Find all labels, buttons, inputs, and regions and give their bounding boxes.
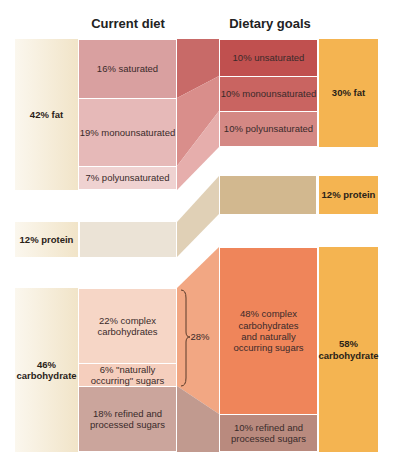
- current-carb-complex: 22% complex carbohydrates: [78, 288, 177, 364]
- goal-carb-complex-natural: 48% complex carbohydrates and naturally …: [219, 247, 318, 415]
- goal-fat-unsaturated: 10% unsaturated: [219, 39, 318, 77]
- goal-protein-label: 12% protein: [319, 176, 378, 214]
- current-fat-saturated: 16% saturated: [78, 39, 177, 99]
- current-fat-polyunsaturated: 7% polyunsaturated: [78, 166, 177, 190]
- current-carb-label: 46% carbohydrate: [15, 288, 78, 452]
- current-carb-natural: 6% "naturally occurring" sugars: [78, 363, 177, 387]
- goal-fat-label: 30% fat: [319, 39, 378, 147]
- current-carb-refined: 18% refined and processed sugars: [78, 386, 177, 452]
- current-fat-label: 42% fat: [15, 39, 78, 190]
- current-fat-monounsaturated: 19% monounsaturated: [78, 98, 177, 167]
- goal-carb-label: 58% carbohydrate: [319, 247, 378, 452]
- goal-fat-polyunsaturated: 10% polyunsaturated: [219, 111, 318, 147]
- goal-protein-block: [220, 176, 316, 214]
- bracket-28-label: 28%: [188, 330, 212, 344]
- current-protein-label: 12% protein: [15, 222, 78, 257]
- current-protein-block: [80, 222, 176, 257]
- goal-fat-monounsaturated: 10% monounsaturated: [219, 76, 318, 112]
- goal-carb-refined: 10% refined and processed sugars: [219, 414, 318, 452]
